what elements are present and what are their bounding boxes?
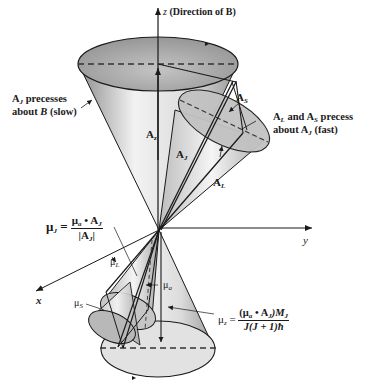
- aj-label: AJ: [176, 148, 187, 162]
- aj-precess-leader: [81, 100, 92, 108]
- mu-z-equation: μz = (μa • AJ)MJ J(J + 1)ħ: [218, 307, 289, 333]
- aj-precesses-label: AJ precesses about B (slow): [12, 93, 77, 118]
- mu-s-label: μS: [74, 297, 83, 310]
- y-axis-label: y: [303, 234, 308, 246]
- al-label: AL: [213, 176, 225, 190]
- vector-model-diagram: [0, 0, 369, 386]
- mu-l-label: μL: [110, 256, 119, 269]
- fast-precession-label: AL and AS precess about AJ (fast): [273, 111, 353, 137]
- mu-j-equation: μJ = μa • AJ |AJ|: [46, 214, 103, 243]
- z-axis-note: (Direction of B): [169, 6, 235, 17]
- z-axis-label: z (Direction of B): [163, 6, 236, 18]
- x-axis-label: x: [36, 294, 42, 306]
- as-label: AS: [236, 91, 248, 105]
- az-label: Az: [146, 128, 157, 142]
- mu-a-label: μa: [163, 279, 172, 292]
